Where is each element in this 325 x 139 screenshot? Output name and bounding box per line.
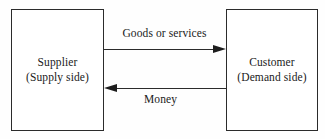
flow-goods-line bbox=[104, 49, 217, 50]
node-supplier-subtitle: (Supply side) bbox=[26, 70, 89, 85]
diagram-canvas: Supplier (Supply side) Customer (Demand … bbox=[0, 0, 325, 139]
arrow-right-icon bbox=[213, 45, 226, 53]
node-supplier-name: Supplier bbox=[38, 55, 78, 70]
arrow-left-icon bbox=[104, 84, 117, 92]
flow-goods-label: Goods or services bbox=[0, 27, 325, 39]
flow-money-line bbox=[112, 88, 226, 89]
node-customer-subtitle: (Demand side) bbox=[237, 70, 306, 85]
node-customer-name: Customer bbox=[249, 55, 295, 70]
flow-money-label: Money bbox=[0, 93, 325, 105]
